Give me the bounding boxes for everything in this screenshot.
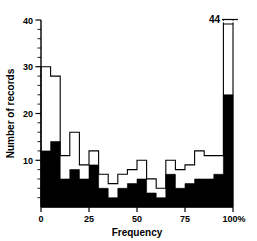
x-axis-title: Frequency <box>112 227 163 238</box>
y-tick-label-40: 40 <box>23 16 33 26</box>
axis-break-label: 44 <box>209 14 221 25</box>
x-tick-label-50: 50 <box>132 214 142 224</box>
x-tick-label-25: 25 <box>84 214 94 224</box>
y-axis-title: Number of records <box>5 68 16 158</box>
x-tick-label-100: 100% <box>222 214 245 224</box>
x-tick-label-75: 75 <box>180 214 190 224</box>
chart-canvas: 40 30 20 10 0 25 50 75 100% Frequency Nu… <box>0 0 257 241</box>
y-tick-label-30: 30 <box>23 62 33 72</box>
y-tick-label-10: 10 <box>23 156 33 166</box>
x-tick-label-0: 0 <box>38 214 43 224</box>
histogram-figure: 40 30 20 10 0 25 50 75 100% Frequency Nu… <box>0 0 257 241</box>
y-tick-label-20: 20 <box>23 109 33 119</box>
